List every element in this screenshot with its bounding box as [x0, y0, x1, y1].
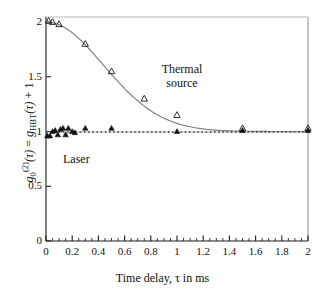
laser-marker	[66, 125, 71, 130]
x-axis-tick-label: 2	[292, 246, 324, 257]
laser-marker	[63, 132, 68, 137]
thermal-source-annotation: Thermal source	[150, 62, 214, 90]
laser-marker	[83, 125, 88, 130]
thermal-source-label-line1: Thermal	[150, 62, 214, 76]
y-axis-tick-label: 0	[8, 235, 42, 246]
figure-container: 00.511.52 00.20.40.60.811.21.41.61.82 Th…	[0, 0, 325, 296]
thermal-source-marker	[108, 68, 114, 74]
y-axis-title: g0(2)(τ) = gHBT(τ) + 1	[22, 43, 37, 223]
laser-annotation: Laser	[63, 152, 90, 166]
thermal-source-label-line2: source	[150, 76, 214, 90]
thermal-source-marker	[174, 112, 180, 118]
y-axis-title-text: g	[22, 176, 36, 182]
laser-marker	[109, 125, 114, 130]
thermal-source-marker	[141, 95, 147, 101]
x-axis-title-text: Time delay, τ in ms	[116, 271, 209, 285]
y-axis-tick-label: 2	[8, 16, 42, 27]
x-axis-title: Time delay, τ in ms	[0, 271, 325, 286]
laser-marker	[174, 129, 179, 134]
